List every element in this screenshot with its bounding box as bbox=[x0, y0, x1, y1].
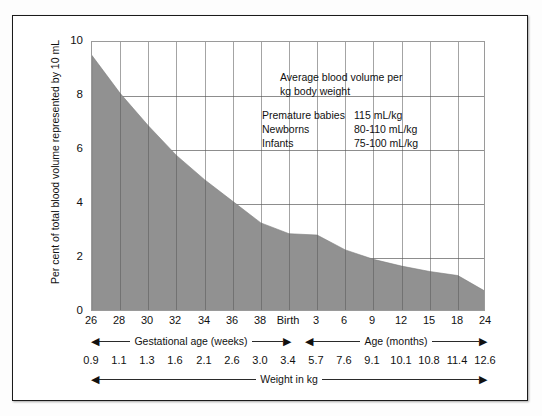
age-months-label: Age (months) bbox=[360, 335, 431, 347]
age-months-span: ◀ Age (months) ▶ bbox=[305, 334, 487, 348]
blood-volume-chart: Per cent of total blood volume represent… bbox=[13, 16, 529, 402]
gridline-x-34 bbox=[205, 42, 206, 310]
annotation-heading-line1: Average blood volume per bbox=[280, 70, 474, 84]
span-rule-right bbox=[432, 341, 479, 342]
gestational-age-span: ◀ Gestational age (weeks) ▶ bbox=[91, 334, 291, 348]
arrow-right-icon: ▶ bbox=[283, 336, 291, 347]
annotation-rows: Premature babies 115 mL/kg Newborns 80-1… bbox=[262, 108, 474, 150]
arrow-right-icon: ▶ bbox=[479, 374, 487, 385]
y-tick-10: 10 bbox=[57, 34, 83, 46]
plot-area: Average blood volume per kg body weight … bbox=[91, 41, 485, 311]
gridline-x-36 bbox=[233, 42, 234, 310]
gridline-x-28 bbox=[120, 42, 121, 310]
annotation-value-premature: 115 mL/kg bbox=[354, 108, 474, 122]
arrow-left-icon: ◀ bbox=[305, 336, 313, 347]
weight-span: ◀ Weight in kg ▶ bbox=[91, 372, 487, 386]
gridline-x-30 bbox=[148, 42, 149, 310]
x-tick-24: 24 bbox=[465, 314, 505, 326]
gridline-x-32 bbox=[176, 42, 177, 310]
span-rule-right bbox=[252, 341, 283, 342]
span-rule-right bbox=[322, 379, 479, 380]
annotation-value-newborns: 80-110 mL/kg bbox=[354, 122, 474, 136]
span-rule-left bbox=[99, 379, 256, 380]
arrow-right-icon: ▶ bbox=[479, 336, 487, 347]
y-tick-8: 8 bbox=[57, 88, 83, 100]
annotation-label-premature: Premature babies bbox=[262, 108, 354, 122]
arrow-left-icon: ◀ bbox=[91, 336, 99, 347]
annotation-box: Average blood volume per kg body weight … bbox=[262, 70, 474, 150]
annotation-label-infants: Infants bbox=[262, 136, 354, 150]
gestational-age-label: Gestational age (weeks) bbox=[130, 335, 251, 347]
y-tick-4: 4 bbox=[57, 196, 83, 208]
y-tick-2: 2 bbox=[57, 250, 83, 262]
span-rule-left bbox=[313, 341, 360, 342]
annotation-label-newborns: Newborns bbox=[262, 122, 354, 136]
arrow-left-icon: ◀ bbox=[91, 374, 99, 385]
weight-in-kg-label: Weight in kg bbox=[256, 373, 322, 385]
weight-tick-14: 12.6 bbox=[463, 354, 507, 366]
annotation-value-infants: 75-100 mL/kg bbox=[354, 136, 474, 150]
y-tick-6: 6 bbox=[57, 142, 83, 154]
span-rule-left bbox=[99, 341, 130, 342]
figure-card: Per cent of total blood volume represent… bbox=[12, 15, 528, 401]
annotation-heading-line2: kg body weight bbox=[280, 84, 474, 98]
